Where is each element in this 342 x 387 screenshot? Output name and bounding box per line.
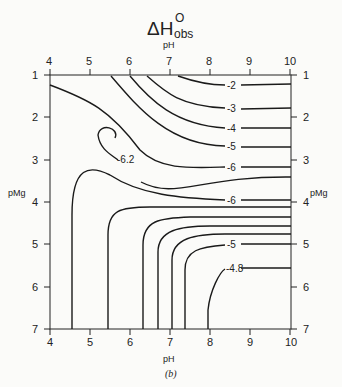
x-axis-label-bottom: pH	[163, 354, 175, 364]
svg-text:8: 8	[207, 336, 213, 348]
svg-text:4: 4	[32, 196, 38, 208]
svg-text:-6: -6	[227, 162, 236, 173]
svg-text:4: 4	[47, 336, 53, 348]
svg-text:5: 5	[32, 238, 38, 250]
svg-text:2: 2	[32, 111, 38, 123]
svg-text:5: 5	[303, 238, 309, 250]
x-axis-top: 4 5 6 7 8 9 10	[46, 55, 296, 75]
svg-text:-4.8: -4.8	[226, 263, 244, 274]
x-axis-bottom: 4 5 6 7 8 9 10	[47, 329, 297, 348]
svg-text:-5: -5	[227, 239, 236, 250]
svg-text:7: 7	[303, 323, 309, 335]
x-axis-label-top: pH	[163, 40, 175, 50]
svg-text:4: 4	[303, 196, 309, 208]
svg-text:5: 5	[87, 336, 93, 348]
chart-title-subscript: obs	[174, 27, 193, 41]
svg-text:7: 7	[166, 55, 172, 67]
y-axis-label-left: pMg	[8, 188, 26, 198]
svg-text:1: 1	[32, 69, 38, 81]
svg-text:7: 7	[167, 336, 173, 348]
contour-lines	[50, 76, 291, 329]
svg-text:10: 10	[284, 55, 296, 67]
svg-text:10: 10	[285, 336, 297, 348]
contour-chart: ΔH O obs pH pH pMg pMg (b) 4 5 6 7 8 9 1…	[0, 0, 342, 387]
svg-text:1: 1	[303, 69, 309, 81]
svg-text:-6: -6	[227, 195, 236, 206]
svg-text:3: 3	[303, 154, 309, 166]
svg-text:6: 6	[303, 281, 309, 293]
chart-title: ΔH	[147, 18, 173, 39]
svg-text:7: 7	[32, 323, 38, 335]
svg-text:-5: -5	[227, 141, 236, 152]
chart-title-superscript: O	[175, 11, 184, 25]
svg-text:4: 4	[46, 55, 52, 67]
svg-text:6: 6	[126, 55, 132, 67]
svg-text:-2: -2	[227, 80, 236, 91]
svg-text:6: 6	[127, 336, 133, 348]
svg-text:8: 8	[206, 55, 212, 67]
svg-text:9: 9	[246, 55, 252, 67]
svg-text:-3: -3	[227, 103, 236, 114]
svg-text:5: 5	[86, 55, 92, 67]
svg-text:6: 6	[32, 281, 38, 293]
figure-caption: (b)	[165, 368, 177, 380]
svg-text:3: 3	[32, 154, 38, 166]
y-axis-label-right: pMg	[310, 188, 328, 198]
svg-text:-4: -4	[227, 123, 236, 134]
svg-text:-6.2: -6.2	[117, 154, 135, 165]
svg-text:2: 2	[303, 111, 309, 123]
y-axis-right: 1 2 3 4 5 6 7	[291, 69, 309, 335]
y-axis-left: 1 2 3 4 5 6 7	[32, 69, 50, 335]
svg-text:9: 9	[247, 336, 253, 348]
